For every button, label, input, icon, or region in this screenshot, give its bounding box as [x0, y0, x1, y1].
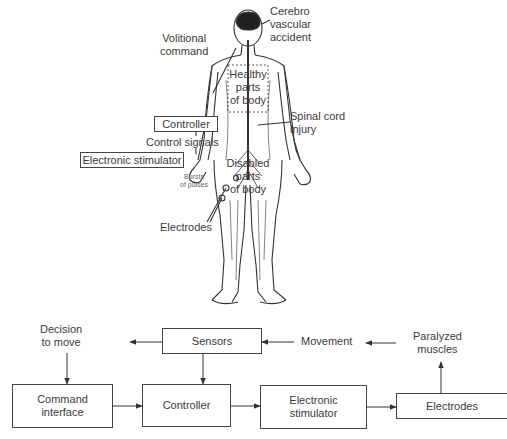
- electrodes-box-label: Electrodes: [426, 400, 478, 413]
- upper-controller-label: Controller: [162, 118, 210, 131]
- electrodes-label: Electrodes: [160, 221, 212, 234]
- controller-box: Controller: [142, 384, 231, 427]
- electronic-stimulator-label: Electronic stimulator: [289, 394, 337, 420]
- paralyzed-muscles-label: Paralyzed muscles: [413, 330, 462, 356]
- human-body-illustration: [0, 0, 507, 439]
- electrodes-box: Electrodes: [396, 393, 507, 419]
- decision-to-move-label: Decision to move: [40, 323, 82, 349]
- disabled-parts-label: Disabled parts of body: [225, 157, 271, 196]
- electronic-stimulator-box: Electronic stimulator: [260, 385, 367, 429]
- upper-controller-box: Controller: [154, 116, 218, 132]
- bursts-of-pulses-label: Bursts of pulses: [180, 173, 208, 189]
- healthy-parts-label: Healthy parts of body: [228, 68, 268, 107]
- command-interface-box: Command interface: [12, 384, 113, 428]
- control-signals-label: Control signals: [146, 136, 219, 149]
- volitional-command-label: Volitional command: [160, 32, 208, 58]
- upper-stimulator-label: Electronic stimulator: [82, 154, 181, 167]
- sensors-box: Sensors: [162, 328, 262, 354]
- command-interface-label: Command interface: [37, 393, 88, 419]
- spinal-cord-injury-label: Spinal cord injury: [290, 110, 345, 136]
- upper-stimulator-box: Electronic stimulator: [80, 152, 184, 168]
- cva-label: Cerebro vascular accident: [270, 5, 311, 44]
- controller-label: Controller: [163, 399, 211, 412]
- movement-label: Movement: [301, 335, 352, 348]
- sensors-label: Sensors: [192, 335, 232, 348]
